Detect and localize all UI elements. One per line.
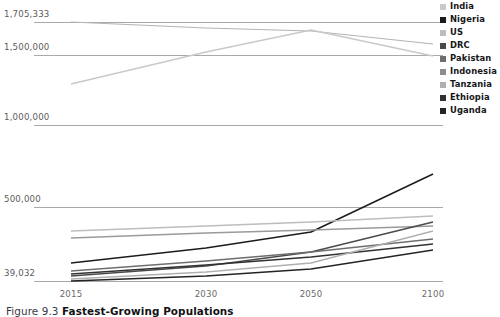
legend-item-ethiopia[interactable]: Ethiopia — [440, 91, 500, 104]
legend-item-india[interactable]: India — [440, 0, 500, 13]
xtick-label-2030: 2030 — [188, 289, 224, 299]
legend-swatch-icon-tanzania — [440, 82, 446, 88]
legend-item-uganda[interactable]: Uganda — [440, 104, 500, 117]
legend-label-india: India — [450, 2, 474, 11]
line-indonesia — [71, 226, 433, 238]
series-lines-upper — [0, 0, 443, 148]
legend-label-pakistan: Pakistan — [450, 54, 491, 63]
xtick-label-2100: 2100 — [415, 289, 451, 299]
legend-swatch-icon-ethiopia — [440, 95, 446, 101]
figure-caption: Figure 9.3 Fastest-Growing Populations — [6, 305, 406, 317]
legend-item-us[interactable]: US — [440, 26, 500, 39]
series-lines-lower — [0, 160, 443, 285]
legend-label-tanzania: Tanzania — [450, 80, 492, 89]
line-pakistan — [71, 239, 433, 271]
figure-fastest-growing-populations: 1,705,333 1,500,000 1,000,000 500,000 39… — [0, 0, 500, 317]
legend-swatch-icon-drc — [440, 43, 446, 49]
legend-item-drc[interactable]: DRC — [440, 39, 500, 52]
legend-item-tanzania[interactable]: Tanzania — [440, 78, 500, 91]
legend-label-nigeria: Nigeria — [450, 15, 485, 24]
legend-label-drc: DRC — [450, 41, 470, 50]
legend-item-indonesia[interactable]: Indonesia — [440, 65, 500, 78]
x-axis: 2015 2030 2050 2100 — [0, 289, 443, 301]
legend-item-nigeria[interactable]: Nigeria — [440, 13, 500, 26]
xtick-label-2015: 2015 — [53, 289, 89, 299]
legend-item-pakistan[interactable]: Pakistan — [440, 52, 500, 65]
legend-swatch-icon-nigeria — [440, 17, 446, 23]
legend-label-us: US — [450, 28, 463, 37]
line-us — [71, 216, 433, 231]
chart-panel-upper: 1,705,333 1,500,000 1,000,000 — [0, 0, 443, 148]
figure-number: Figure 9.3 — [6, 305, 59, 317]
figure-title: Fastest-Growing Populations — [62, 305, 234, 317]
line-china — [71, 22, 433, 44]
legend-swatch-icon-uganda — [440, 108, 446, 114]
chart-panel-lower: 500,000 39,032 — [0, 160, 443, 285]
xtick-label-2050: 2050 — [293, 289, 329, 299]
legend-swatch-icon-indonesia — [440, 69, 446, 75]
legend-swatch-icon-pakistan — [440, 56, 446, 62]
chart-legend: India Nigeria US DRC Pakistan Indonesia … — [440, 0, 500, 112]
legend-swatch-icon-india — [440, 4, 446, 10]
legend-swatch-icon-us — [440, 30, 446, 36]
legend-label-indonesia: Indonesia — [450, 67, 497, 76]
legend-label-uganda: Uganda — [450, 106, 487, 115]
legend-label-ethiopia: Ethiopia — [450, 93, 490, 102]
